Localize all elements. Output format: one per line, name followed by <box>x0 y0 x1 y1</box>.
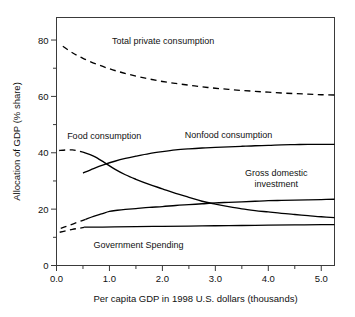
y-tick-label: 0 <box>43 260 48 271</box>
x-tick-label: 2.0 <box>156 273 169 284</box>
x-axis-title: Per capita GDP in 1998 U.S. dollars (tho… <box>93 293 297 304</box>
series-line-gross-domestic-investment-dashed-head <box>61 219 86 228</box>
plot-frame <box>57 18 335 266</box>
chart-figure: 0204060800.01.02.03.04.05.0 Total privat… <box>0 0 355 317</box>
series-line-government-spending <box>84 225 334 228</box>
annotation-food-consumption: Food consumption <box>67 131 141 141</box>
x-tick-label: 1.0 <box>103 273 116 284</box>
series-line-total-private-consumption <box>63 46 335 95</box>
x-tick-label: 0.0 <box>50 273 63 284</box>
x-tick-label: 3.0 <box>209 273 222 284</box>
series-line-government-spending-dashed-head <box>60 227 84 232</box>
annotation-total-private-consumption: Total private consumption <box>112 36 214 46</box>
axis-titles: Per capita GDP in 1998 U.S. dollars (tho… <box>11 82 298 304</box>
y-axis-title: Allocation of GDP (% share) <box>11 82 22 201</box>
annotation-nonfood-consumption: Nonfood consumption <box>185 130 273 140</box>
plot-area-border <box>57 18 335 266</box>
series-annotations: Total private consumptionFood consumptio… <box>67 36 308 250</box>
x-tick-label: 4.0 <box>262 273 275 284</box>
annotation-gross-domestic: Gross domestic <box>245 168 308 178</box>
annotation-government-spending: Government Spending <box>94 240 184 250</box>
gdp-allocation-line-chart: 0204060800.01.02.03.04.05.0 Total privat… <box>0 0 355 317</box>
x-tick-label: 5.0 <box>315 273 328 284</box>
y-tick-label: 20 <box>38 204 49 215</box>
series-line-food-consumption-dashed-head <box>59 150 83 152</box>
series-line-gross-domestic-investment <box>86 199 335 219</box>
y-tick-label: 60 <box>38 91 49 102</box>
y-tick-label: 40 <box>38 147 49 158</box>
y-tick-label: 80 <box>38 35 49 46</box>
annotation-investment: investment <box>254 179 298 189</box>
